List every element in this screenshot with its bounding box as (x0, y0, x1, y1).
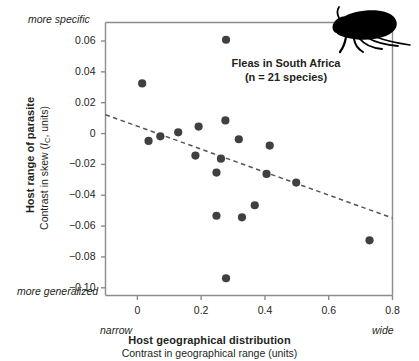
flea-leg-0 (340, 37, 346, 52)
data-point (138, 79, 146, 87)
data-point (144, 137, 152, 145)
scatter-plot-figure: more specific more generalized narrow wi… (0, 0, 419, 361)
data-point (365, 236, 373, 244)
data-point (235, 135, 243, 143)
data-point (251, 201, 259, 209)
data-point (292, 178, 300, 186)
data-points-group (138, 36, 374, 283)
data-point (195, 123, 203, 131)
data-point (174, 128, 182, 136)
flea-antenna (338, 7, 340, 18)
axis-tick-marks (101, 41, 393, 300)
data-point (156, 132, 164, 140)
flea-silhouette-icon (330, 4, 416, 56)
flea-body (332, 7, 410, 52)
data-point (222, 274, 230, 282)
data-point (191, 152, 199, 160)
trend-line-group (106, 115, 393, 218)
data-point (222, 36, 230, 44)
data-point (217, 155, 225, 163)
trend-line (106, 115, 393, 218)
data-point (238, 213, 246, 221)
data-point (212, 168, 220, 176)
data-point (221, 116, 229, 124)
axis-frame (106, 23, 393, 296)
data-point (262, 170, 270, 178)
data-point (266, 141, 274, 149)
data-point (212, 212, 220, 220)
